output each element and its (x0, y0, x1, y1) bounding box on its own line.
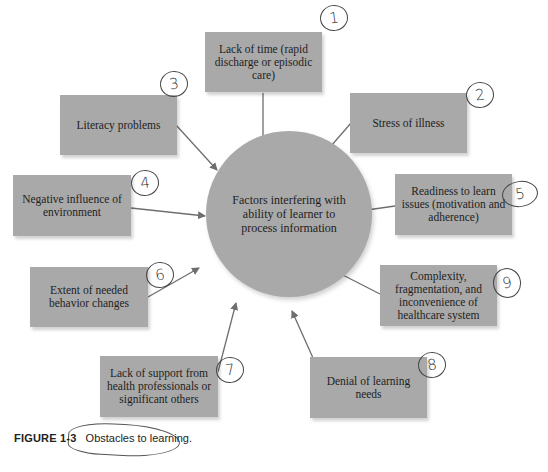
factor-label-7: Lack of support from health professional… (106, 367, 212, 406)
factor-label-4: Negative influence of environment (19, 193, 125, 219)
factor-label-5: Readiness to learn issues (motivation an… (401, 185, 506, 224)
factor-box-1: Lack of time (rapid discharge or episodi… (205, 32, 322, 92)
arrow-4 (131, 208, 205, 216)
center-circle: Factors interfering with ability of lear… (206, 131, 372, 297)
factor-box-7: Lack of support from health professional… (100, 356, 218, 417)
factor-label-6: Extent of needed behavior changes (36, 284, 142, 310)
factor-label-3: Literacy problems (77, 119, 161, 132)
factor-label-9: Complexity, fragmentation, and inconveni… (386, 270, 491, 322)
factor-label-2: Stress of illness (372, 117, 444, 130)
factor-box-6: Extent of needed behavior changes (30, 267, 148, 327)
arrow-8 (292, 311, 313, 358)
figure-caption-text: Obstacles to learning. (86, 432, 192, 444)
factor-box-3: Literacy problems (60, 95, 177, 155)
factor-box-4: Negative influence of environment (13, 175, 131, 236)
factor-box-9: Complexity, fragmentation, and inconveni… (380, 265, 497, 326)
figure-label: FIGURE 1-3 (14, 432, 77, 444)
factor-box-5: Readiness to learn issues (motivation an… (395, 174, 512, 235)
factor-label-1: Lack of time (rapid discharge or episodi… (211, 43, 316, 82)
factor-box-8: Denial of learning needs (310, 357, 427, 418)
arrow-3 (176, 125, 217, 170)
factor-box-2: Stress of illness (350, 93, 467, 153)
center-label: Factors interfering with ability of lear… (226, 193, 352, 235)
figure-caption: FIGURE 1-3 Obstacles to learning. (14, 432, 192, 444)
factor-label-8: Denial of learning needs (316, 375, 421, 401)
